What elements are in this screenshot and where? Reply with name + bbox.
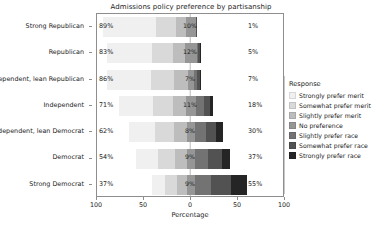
bar-segment xyxy=(210,96,213,116)
neutral-percentage-label: 9% xyxy=(185,171,195,197)
merit-percentage-label: 37% xyxy=(99,171,113,197)
y-axis-tick xyxy=(89,52,92,53)
race-percentage-label: 1% xyxy=(248,13,258,39)
legend-item[interactable]: Slightly prefer race xyxy=(288,130,392,140)
bar-segment xyxy=(107,70,151,90)
neutral-percentage-label: 9% xyxy=(185,144,195,170)
merit-percentage-label: 89% xyxy=(99,13,113,39)
y-axis-tick-label: Strong Republican xyxy=(26,13,84,39)
merit-percentage-label: 86% xyxy=(99,66,113,92)
legend-item-label: Slightly prefer race xyxy=(299,132,358,139)
y-axis-tick-label: Republican xyxy=(49,39,84,65)
legend-items: Strongly prefer meritSomewhat prefer mer… xyxy=(288,90,392,160)
race-percentage-label: 37% xyxy=(248,144,262,170)
neutral-percentage-label: 10% xyxy=(183,13,197,39)
bar-segment xyxy=(204,96,211,116)
neutral-percentage-label: 11% xyxy=(183,92,197,118)
stacked-bar xyxy=(152,175,247,195)
bar-segment xyxy=(158,149,175,169)
legend: Response Strongly prefer meritSomewhat p… xyxy=(288,80,392,160)
legend-swatch-icon xyxy=(289,92,296,99)
chart-title: Admissions policy preference by partisan… xyxy=(96,3,286,11)
x-axis-tick xyxy=(237,197,238,200)
bar-segment xyxy=(165,175,177,195)
legend-item-label: No preference xyxy=(299,122,343,129)
bar-segment xyxy=(195,149,208,169)
bar-segment xyxy=(107,43,152,63)
legend-swatch-icon xyxy=(289,132,296,139)
y-axis-tick xyxy=(89,79,92,80)
legend-item[interactable]: No preference xyxy=(288,120,392,130)
bar-segment xyxy=(152,43,173,63)
bar-segment xyxy=(200,43,201,63)
x-axis-tick-label: 0 xyxy=(188,201,192,209)
legend-swatch-icon xyxy=(289,122,296,129)
y-axis-tick xyxy=(89,158,92,159)
x-axis-tick-label: 100 xyxy=(278,201,290,209)
neutral-percentage-label: 8% xyxy=(185,118,195,144)
bar-segment xyxy=(151,70,174,90)
x-axis-tick xyxy=(143,197,144,200)
legend-title: Response xyxy=(289,80,392,88)
bar-segment xyxy=(200,70,201,90)
legend-item-label: Somewhat prefer race xyxy=(299,142,368,149)
bar-segment xyxy=(129,122,155,142)
stacked-bar xyxy=(129,122,223,142)
legend-swatch-icon xyxy=(289,112,296,119)
legend-swatch-icon xyxy=(289,152,296,159)
bar-segment xyxy=(152,175,165,195)
x-axis-tick xyxy=(284,197,285,200)
merit-percentage-label: 54% xyxy=(99,144,113,170)
merit-percentage-label: 62% xyxy=(99,118,113,144)
legend-item[interactable]: Somewhat prefer race xyxy=(288,140,392,150)
legend-divider xyxy=(284,76,285,194)
x-axis-tick xyxy=(96,197,97,200)
merit-percentage-label: 83% xyxy=(99,39,113,65)
race-percentage-label: 18% xyxy=(248,92,262,118)
race-percentage-label: 30% xyxy=(248,118,262,144)
y-axis-tick xyxy=(89,184,92,185)
y-axis-tick-label: Democrat xyxy=(52,144,84,170)
legend-item[interactable]: Strongly prefer merit xyxy=(288,90,392,100)
x-axis-tick xyxy=(190,197,191,200)
merit-percentage-label: 71% xyxy=(99,92,113,118)
chart-root: Admissions policy preference by partisan… xyxy=(0,0,392,235)
bar-segment xyxy=(153,96,173,116)
bar-segment xyxy=(206,122,216,142)
neutral-percentage-label: 12% xyxy=(183,39,197,65)
y-axis-tick-label: Independent, lean Democrat xyxy=(0,118,84,144)
y-axis-tick xyxy=(89,105,92,106)
bar-segment xyxy=(119,96,153,116)
x-axis-title: Percentage xyxy=(96,211,284,219)
bar-segment xyxy=(195,122,206,142)
y-axis-tick xyxy=(89,131,92,132)
y-axis-tick-label: Independent xyxy=(43,92,84,118)
legend-item-label: Somewhat prefer merit xyxy=(299,102,371,109)
bar-segment xyxy=(208,149,221,169)
race-percentage-label: 7% xyxy=(248,66,258,92)
bar-segment xyxy=(216,122,223,142)
legend-swatch-icon xyxy=(289,142,296,149)
y-axis-tick xyxy=(89,26,92,27)
legend-item-label: Strongly prefer merit xyxy=(299,92,364,99)
bar-segment xyxy=(156,17,176,37)
x-axis-tick-label: 50 xyxy=(233,201,241,209)
x-axis-tick-label: 100 xyxy=(90,201,102,209)
race-percentage-label: 55% xyxy=(248,171,262,197)
bar-segment xyxy=(136,149,158,169)
bar-segment xyxy=(195,175,211,195)
y-axis-labels: Strong RepublicanRepublicanIndependent, … xyxy=(0,13,92,197)
legend-item-label: Slightly prefer merit xyxy=(299,112,361,119)
race-percentage-label: 5% xyxy=(248,39,258,65)
x-axis-tick-label: 50 xyxy=(139,201,147,209)
bar-segment xyxy=(231,175,247,195)
legend-item[interactable]: Slightly prefer merit xyxy=(288,110,392,120)
y-axis-tick-label: Independent, lean Republican xyxy=(0,66,84,92)
legend-item[interactable]: Strongly prefer race xyxy=(288,150,392,160)
bar-segment xyxy=(211,175,231,195)
bar-segment xyxy=(222,149,230,169)
stacked-bar xyxy=(119,96,213,116)
stacked-bar xyxy=(136,149,230,169)
legend-item[interactable]: Somewhat prefer merit xyxy=(288,100,392,110)
y-axis-tick-label: Strong Democrat xyxy=(29,171,84,197)
